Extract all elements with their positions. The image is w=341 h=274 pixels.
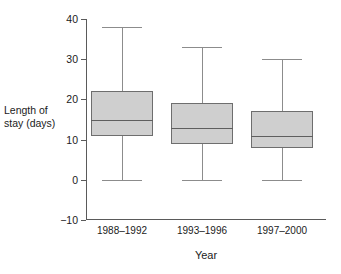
- upper-whisker-line: [282, 59, 283, 111]
- y-tick-label: 30: [66, 53, 78, 65]
- y-axis-line: [86, 19, 87, 220]
- y-axis-label-line-2: stay (days): [4, 117, 76, 130]
- upper-whisker-cap: [102, 27, 142, 28]
- y-tick-label: 20: [66, 93, 78, 105]
- x-tick-label: 1993–1996: [177, 225, 227, 236]
- y-tick-mark: [81, 19, 86, 20]
- y-tick-mark: [81, 220, 86, 221]
- lower-whisker-cap: [182, 180, 222, 181]
- lower-whisker-line: [282, 148, 283, 180]
- y-tick-mark: [81, 140, 86, 141]
- y-axis-label-line-1: Length of: [4, 104, 76, 117]
- box-rect: [171, 103, 233, 143]
- y-tick-label: 40: [66, 13, 78, 25]
- x-axis-label: Year: [86, 249, 326, 261]
- box-rect: [251, 111, 313, 147]
- lower-whisker-line: [122, 136, 123, 180]
- upper-whisker-cap: [182, 47, 222, 48]
- upper-whisker-line: [202, 47, 203, 103]
- lower-whisker-cap: [102, 180, 142, 181]
- plot-area: 403020100−10 1988–19921993–19961997–2000: [86, 19, 326, 220]
- median-line: [91, 120, 153, 121]
- x-tick-label: 1997–2000: [257, 225, 307, 236]
- y-tick-mark: [81, 59, 86, 60]
- y-tick-label: 10: [66, 134, 78, 146]
- lower-whisker-cap: [262, 180, 302, 181]
- box-plot-item: [91, 19, 153, 220]
- y-tick-mark: [81, 99, 86, 100]
- y-tick-label: 0: [72, 174, 78, 186]
- y-tick-label: −10: [60, 214, 78, 226]
- box-plot-item: [251, 19, 313, 220]
- y-tick-mark: [81, 180, 86, 181]
- median-line: [171, 128, 233, 129]
- lower-whisker-line: [202, 144, 203, 180]
- box-rect: [91, 91, 153, 135]
- upper-whisker-cap: [262, 59, 302, 60]
- box-plot-item: [171, 19, 233, 220]
- x-tick-label: 1988–1992: [97, 225, 147, 236]
- median-line: [251, 136, 313, 137]
- y-axis-label: Length of stay (days): [4, 104, 76, 130]
- upper-whisker-line: [122, 27, 123, 91]
- box-plot-figure: Length of stay (days) 403020100−10 1988–…: [0, 0, 341, 274]
